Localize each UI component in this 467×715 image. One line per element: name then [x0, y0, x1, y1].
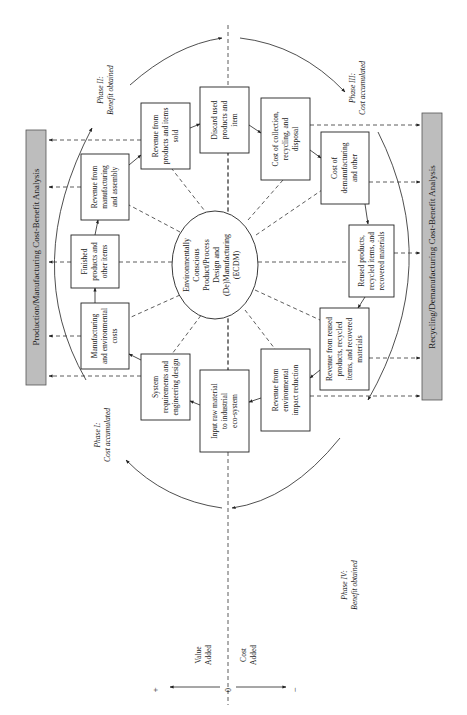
- svg-text:eco-system: eco-system: [230, 394, 239, 428]
- svg-text:items, and recovered: items, and recovered: [345, 318, 354, 381]
- svg-text:recovered materials: recovered materials: [377, 231, 386, 290]
- svg-text:Design and: Design and: [212, 247, 221, 283]
- svg-text:Benefit obtained: Benefit obtained: [106, 65, 115, 115]
- svg-text:engineering design: engineering design: [171, 358, 180, 415]
- svg-text:System: System: [151, 376, 160, 398]
- plus-sign: +: [150, 687, 160, 692]
- svg-text:Phase III:: Phase III:: [348, 73, 357, 104]
- svg-text:and environmental: and environmental: [100, 308, 109, 364]
- svg-text:Finished: Finished: [80, 248, 89, 274]
- svg-text:(De)Manufacturing: (De)Manufacturing: [222, 234, 231, 296]
- svg-text:Added: Added: [204, 645, 213, 665]
- svg-text:materials: materials: [355, 335, 364, 363]
- box-finished-products: Finished products and other items: [71, 235, 119, 288]
- value-added-label: Value Added: [194, 645, 213, 665]
- cost-added-label: Cost Added: [239, 645, 258, 665]
- box-reused-products: Reused products, recycled items, and rec…: [349, 225, 394, 297]
- box-cost-collection-recycling: Cost of collection, recycling, and dispo…: [261, 98, 310, 180]
- svg-text:Value: Value: [194, 646, 203, 664]
- right-bar-label: Recycling/Demanufacturing Cost-Benefit A…: [427, 165, 437, 349]
- svg-text:requirements and: requirements and: [161, 361, 170, 413]
- svg-text:sold: sold: [171, 130, 180, 143]
- svg-text:Product/Process: Product/Process: [202, 239, 211, 291]
- diagram-canvas: Production/Manufacturing Cost-Benefit An…: [0, 0, 467, 715]
- svg-text:Cost: Cost: [239, 647, 248, 662]
- svg-text:item: item: [230, 113, 239, 126]
- phase-3-label: Phase III: Cost accumulated: [348, 61, 367, 115]
- svg-text:Phase I:: Phase I:: [93, 422, 102, 448]
- svg-text:Revenue from: Revenue from: [271, 368, 280, 411]
- right-analysis-bar: Recycling/Demanufacturing Cost-Benefit A…: [422, 113, 442, 400]
- left-bar-label: Production/Manufacturing Cost-Benefit An…: [31, 168, 41, 345]
- svg-text:and assembly: and assembly: [110, 166, 119, 207]
- svg-text:Phase II:: Phase II:: [96, 76, 105, 105]
- svg-text:to industrial: to industrial: [220, 393, 229, 429]
- svg-text:manufacturing: manufacturing: [100, 165, 109, 209]
- phase-2-label: Phase II: Benefit obtained: [96, 65, 115, 115]
- svg-text:(ECDM): (ECDM): [232, 250, 241, 279]
- box-revenue-environmental: Revenue from environmental impact reduct…: [261, 349, 310, 431]
- box-input-raw-material: Input raw material to industrial eco-sys…: [200, 370, 249, 452]
- svg-text:products and: products and: [220, 100, 229, 139]
- svg-text:recycled items, and: recycled items, and: [367, 232, 376, 290]
- svg-text:demanufacturing: demanufacturing: [340, 142, 349, 193]
- svg-text:Revenue from reused: Revenue from reused: [325, 317, 334, 381]
- value-cost-legend: + − 0 Value Added Cost Added: [150, 645, 300, 693]
- svg-text:other items: other items: [100, 245, 109, 279]
- box-revenue-reused-products: Revenue from reused products, recycled i…: [320, 308, 369, 390]
- ecdm-center-node: Environmentally Conscious Product/Proces…: [172, 211, 258, 319]
- svg-text:Cost accumulated: Cost accumulated: [358, 61, 367, 115]
- svg-text:and other: and other: [350, 153, 359, 182]
- svg-text:recycling, and: recycling, and: [281, 118, 290, 161]
- box-discard-used-products: Discard used products and item: [200, 87, 249, 153]
- left-analysis-bar: Production/Manufacturing Cost-Benefit An…: [26, 130, 46, 385]
- svg-text:Environmentally: Environmentally: [182, 238, 191, 292]
- svg-text:disposal: disposal: [291, 127, 300, 152]
- svg-text:Added: Added: [249, 645, 258, 665]
- svg-text:Discard used: Discard used: [210, 100, 219, 139]
- svg-text:Revenue from: Revenue from: [151, 114, 160, 157]
- svg-text:Manufacturing: Manufacturing: [90, 313, 99, 358]
- svg-text:products and: products and: [90, 242, 99, 281]
- svg-text:products and items: products and items: [161, 108, 170, 165]
- svg-text:products, recycled: products, recycled: [335, 321, 344, 376]
- svg-text:Benefit obtained: Benefit obtained: [350, 560, 359, 610]
- svg-text:Reused products,: Reused products,: [357, 235, 366, 287]
- zero-label: 0: [224, 688, 233, 692]
- phase-4-label: Phase IV: Benefit obtained: [340, 560, 359, 610]
- phase-1-label: Phase I: Cost accumulated: [93, 408, 112, 462]
- ecdm-diagram: Production/Manufacturing Cost-Benefit An…: [0, 0, 467, 715]
- box-manufacturing-costs: Manufacturing and environmental costs: [81, 303, 129, 369]
- svg-text:environmental: environmental: [281, 368, 290, 411]
- box-cost-demanufacturing: Cost of demanufacturing and other: [321, 132, 369, 204]
- minus-sign: −: [290, 687, 300, 692]
- svg-text:Conscious: Conscious: [192, 248, 201, 281]
- svg-text:Revenue from: Revenue from: [90, 165, 99, 208]
- svg-text:costs: costs: [110, 328, 119, 343]
- svg-text:Input raw material: Input raw material: [210, 383, 219, 438]
- box-revenue-manufacturing: Revenue from manufacturing and assembly: [81, 154, 129, 220]
- box-revenue-products-sold: Revenue from products and items sold: [141, 103, 190, 169]
- svg-text:Cost accumulated: Cost accumulated: [103, 408, 112, 462]
- svg-text:Cost of collection,: Cost of collection,: [271, 111, 280, 166]
- box-system-requirements: System requirements and engineering desi…: [141, 354, 190, 420]
- svg-text:Phase IV:: Phase IV:: [340, 570, 349, 600]
- svg-text:Cost of: Cost of: [330, 157, 339, 179]
- svg-text:impact reduction: impact reduction: [291, 364, 300, 415]
